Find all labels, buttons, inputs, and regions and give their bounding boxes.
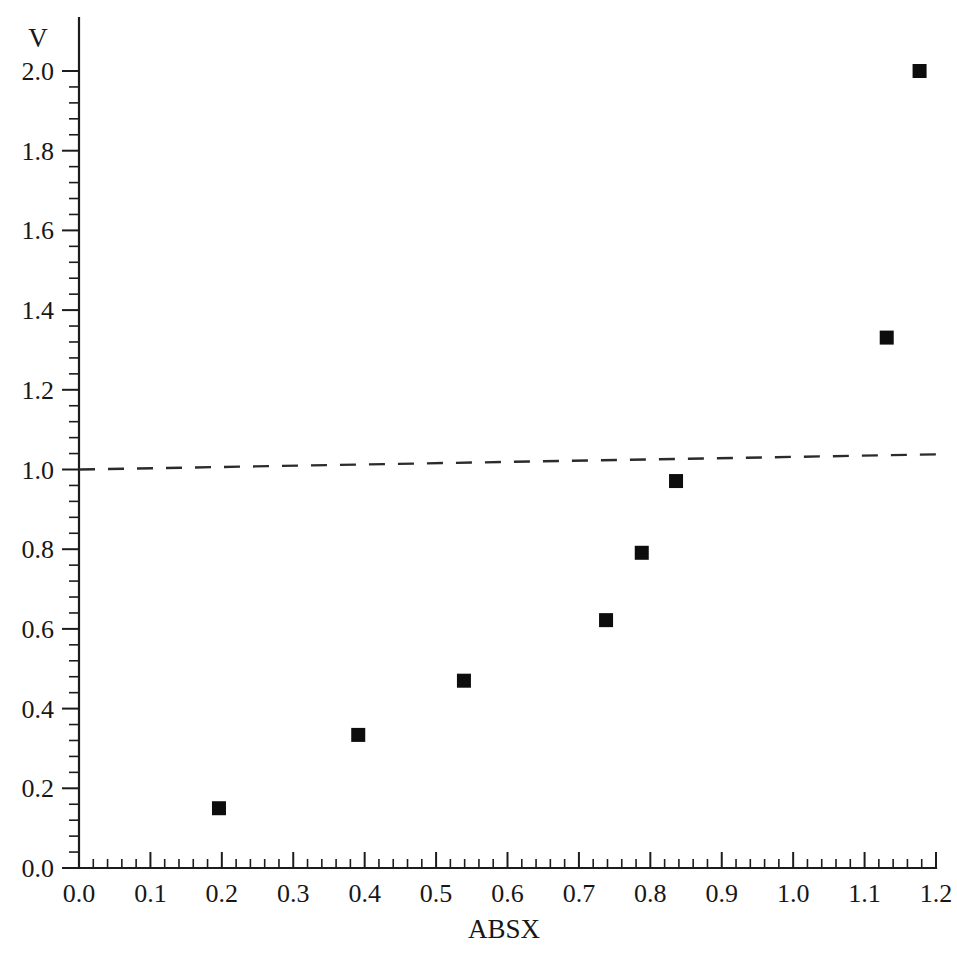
y-tick-label: 1.6 xyxy=(22,216,55,245)
data-point-marker xyxy=(669,474,683,488)
data-point-marker xyxy=(351,728,365,742)
y-tick-label: 1.4 xyxy=(22,296,55,325)
data-point-marker xyxy=(913,64,927,78)
x-tick-label: 0.2 xyxy=(206,879,239,908)
x-tick-label: 0.9 xyxy=(706,879,739,908)
x-tick-label: 1.2 xyxy=(920,879,953,908)
y-tick-label: 1.8 xyxy=(22,137,55,166)
x-tick-label: 0.7 xyxy=(563,879,596,908)
x-tick-label: 1.1 xyxy=(848,879,881,908)
x-tick-label: 0.3 xyxy=(277,879,310,908)
data-point-marker xyxy=(599,613,613,627)
x-tick-label: 0.6 xyxy=(491,879,524,908)
y-tick-label: 0.2 xyxy=(22,774,55,803)
x-axis-title: ABSX xyxy=(468,914,541,944)
x-tick-label: 0.4 xyxy=(348,879,381,908)
y-axis-title: V xyxy=(28,23,48,53)
scatter-plot: 0.00.10.20.30.40.50.60.70.80.91.01.11.20… xyxy=(0,0,957,953)
x-tick-label: 0.8 xyxy=(634,879,667,908)
y-tick-label: 0.8 xyxy=(22,535,55,564)
y-tick-label: 2.0 xyxy=(22,57,55,86)
data-point-marker xyxy=(635,546,649,560)
y-tick-label: 1.2 xyxy=(22,376,55,405)
plot-background xyxy=(0,0,957,953)
chart-page: 0.00.10.20.30.40.50.60.70.80.91.01.11.20… xyxy=(0,0,957,953)
y-tick-label: 1.0 xyxy=(22,456,55,485)
data-point-marker xyxy=(212,801,226,815)
data-point-marker xyxy=(880,331,894,345)
data-point-marker xyxy=(457,674,471,688)
y-tick-label: 0.4 xyxy=(22,695,55,724)
y-tick-label: 0.0 xyxy=(22,854,55,883)
x-tick-label: 0.5 xyxy=(420,879,453,908)
y-tick-label: 0.6 xyxy=(22,615,55,644)
x-tick-label: 0.0 xyxy=(63,879,96,908)
x-tick-label: 1.0 xyxy=(777,879,810,908)
x-tick-label: 0.1 xyxy=(134,879,167,908)
